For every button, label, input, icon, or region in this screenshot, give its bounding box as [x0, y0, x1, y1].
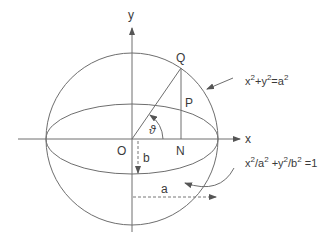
- x-axis-label: x: [245, 132, 251, 146]
- label-q: Q: [176, 51, 185, 65]
- label-a: a: [161, 182, 168, 196]
- label-origin: O: [117, 144, 126, 158]
- radius-line-oq: [132, 68, 181, 139]
- eq-circle-part: =a: [271, 75, 284, 87]
- label-b: b: [143, 151, 150, 165]
- eq-ellipse-part: /b: [288, 157, 297, 169]
- circle-pointer-arrow: [207, 78, 233, 89]
- label-n: N: [176, 144, 185, 158]
- ellipse-circle-diagram: x y ϑ Q P N O b a x2+y2=a2 x2/a2 +y2/b2 …: [0, 0, 329, 249]
- eq-ellipse-part: +y: [269, 157, 284, 169]
- circle-equation: x2+y2=a2: [245, 73, 289, 87]
- ellipse-equation: x2/a2 +y2/b2 =1: [245, 155, 317, 169]
- eq-ellipse-part: =1: [302, 157, 318, 169]
- y-axis-label: y: [128, 8, 134, 22]
- theta-label: ϑ: [149, 123, 156, 137]
- label-p: P: [185, 96, 193, 110]
- eq-circle-part: +y: [255, 75, 267, 87]
- eq-circle-part: 2: [284, 73, 289, 82]
